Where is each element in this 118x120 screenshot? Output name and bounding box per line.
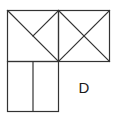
top-left-half-diagonal [33,11,59,37]
tangram-figure-d [0,0,118,120]
figure-label: D [78,80,90,95]
